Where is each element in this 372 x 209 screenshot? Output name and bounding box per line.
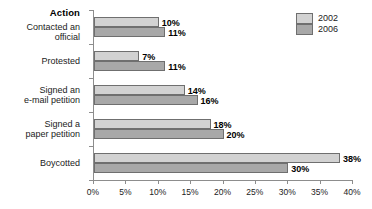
value-axis-tick (255, 180, 256, 184)
bar (94, 129, 224, 139)
legend-swatch (296, 24, 313, 35)
value-axis-tick-label: 25% (240, 187, 270, 197)
bar-value-label: 20% (227, 130, 245, 140)
value-axis-tick (223, 180, 224, 184)
category-axis-label-line: Signed an (0, 85, 80, 96)
category-axis-tick (89, 10, 93, 11)
category-axis-label: Boycotted (0, 158, 80, 169)
category-axis-tick (89, 112, 93, 113)
value-axis-tick-label: 35% (305, 187, 335, 197)
bar (94, 61, 165, 71)
bar (94, 95, 198, 105)
value-axis-tick-label: 30% (272, 187, 302, 197)
legend-swatch (296, 13, 313, 24)
value-axis-tick-label: 40% (337, 187, 367, 197)
value-axis-tick (93, 180, 94, 184)
bar-value-label: 38% (343, 154, 361, 164)
category-axis-tick (89, 78, 93, 79)
value-axis-tick (320, 180, 321, 184)
bar (94, 17, 159, 27)
bar-value-label: 30% (291, 164, 309, 174)
bar-chart: Action Contacted an officialProtestedSig… (0, 0, 372, 209)
value-axis-tick-label: 20% (208, 187, 238, 197)
value-axis-tick (125, 180, 126, 184)
value-axis-tick (190, 180, 191, 184)
bar-value-label: 16% (201, 96, 219, 106)
legend-label: 2002 (318, 13, 338, 24)
category-axis-label: Protested (0, 56, 80, 67)
bar (94, 119, 211, 129)
legend-label: 2006 (318, 24, 338, 35)
category-axis-label-line: Signed a (0, 119, 80, 130)
bar-value-label: 10% (162, 18, 180, 28)
value-axis-tick-label: 10% (143, 187, 173, 197)
bar-value-label: 14% (188, 86, 206, 96)
bar-value-label: 7% (142, 52, 155, 62)
bar (94, 27, 165, 37)
category-axis-label-line: Boycotted (0, 158, 80, 169)
value-axis-tick-label: 0% (78, 187, 108, 197)
value-axis-tick-label: 15% (175, 187, 205, 197)
category-axis-label-line: paper petition (0, 129, 80, 140)
category-axis-label-line: e-mail petition (0, 95, 80, 106)
category-axis-tick (89, 44, 93, 45)
bar (94, 163, 288, 173)
category-axis-label: Contacted an official (0, 22, 80, 43)
category-axis-label: Signed ane-mail petition (0, 85, 80, 106)
value-axis-tick (352, 180, 353, 184)
category-axis-label-line: Protested (0, 56, 80, 67)
value-axis-tick (158, 180, 159, 184)
bar-value-label: 18% (214, 120, 232, 130)
bar-value-label: 11% (168, 62, 186, 72)
value-axis-tick (287, 180, 288, 184)
category-axis-tick (89, 146, 93, 147)
bar-value-label: 11% (168, 28, 186, 38)
category-axis-label-line: Contacted an official (0, 22, 80, 43)
plot-area: 0%5%10%15%20%25%30%35%40% 10%11%7%11%14%… (93, 10, 352, 180)
bar (94, 153, 340, 163)
category-axis-title: Action (0, 7, 80, 18)
value-axis-tick-label: 5% (110, 187, 140, 197)
category-axis-label: Signed apaper petition (0, 119, 80, 140)
bar (94, 85, 185, 95)
bar (94, 51, 139, 61)
